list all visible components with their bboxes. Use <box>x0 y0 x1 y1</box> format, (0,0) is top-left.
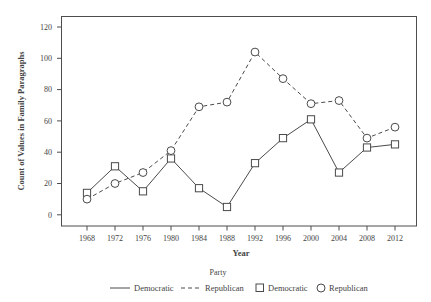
data-point <box>307 116 314 123</box>
data-point <box>391 141 398 148</box>
data-point <box>279 135 286 142</box>
y-tick-label: 80 <box>44 85 52 94</box>
legend-item-republican-marker[interactable]: Republican <box>317 283 368 293</box>
data-point <box>223 203 230 210</box>
x-tick-label: 1996 <box>275 234 291 243</box>
circle-marker-icon <box>317 284 325 292</box>
legend-item-democratic-line[interactable]: Democratic <box>110 283 174 293</box>
data-point <box>279 75 287 83</box>
data-point <box>223 98 231 106</box>
legend-label: Democratic <box>268 283 308 293</box>
data-point <box>111 180 119 188</box>
chart-container: 0 20 40 60 80 100 120 Count of Values in… <box>0 0 431 302</box>
x-axis-title: Year <box>233 248 250 258</box>
data-point <box>335 97 343 105</box>
x-axis-tick-labels: 1968 1972 1976 1980 1984 1988 1992 1996 … <box>79 234 403 243</box>
series-democratic-square <box>83 116 398 211</box>
y-tick-label: 60 <box>44 117 52 126</box>
series-line-republican <box>87 52 395 199</box>
legend-item-republican-line[interactable]: Republican <box>181 283 244 293</box>
data-point <box>363 144 370 151</box>
x-tick-label: 2000 <box>303 234 319 243</box>
y-tick-label: 100 <box>40 54 52 63</box>
data-point <box>111 163 118 170</box>
legend-label: Republican <box>205 283 244 293</box>
data-point <box>83 195 91 203</box>
y-tick-label: 40 <box>44 148 52 157</box>
data-point <box>195 103 203 111</box>
y-axis-title: Count of Values in Family Paragraphs <box>16 51 26 191</box>
x-tick-label: 2004 <box>331 234 347 243</box>
data-point <box>391 123 399 131</box>
x-tick-label: 1992 <box>247 234 263 243</box>
y-axis-ticks <box>57 27 62 215</box>
legend: Party Democratic Republican Democratic R… <box>110 268 368 293</box>
data-point <box>139 169 147 177</box>
legend-item-democratic-marker[interactable]: Democratic <box>256 283 308 293</box>
data-point <box>363 134 371 142</box>
series-line-democratic <box>87 119 395 207</box>
data-point <box>167 147 175 155</box>
y-tick-label: 120 <box>40 23 52 32</box>
y-tick-label: 0 <box>48 211 52 220</box>
data-point <box>195 185 202 192</box>
data-point <box>335 169 342 176</box>
x-tick-label: 1976 <box>135 234 151 243</box>
legend-label: Republican <box>329 283 368 293</box>
y-axis-tick-labels: 0 20 40 60 80 100 120 <box>40 23 52 220</box>
legend-title: Party <box>210 268 227 277</box>
legend-label: Democratic <box>134 283 174 293</box>
x-tick-label: 2008 <box>359 234 375 243</box>
x-axis-ticks <box>87 226 395 231</box>
data-point <box>139 188 146 195</box>
x-tick-label: 1972 <box>107 234 123 243</box>
data-point <box>251 160 258 167</box>
square-marker-icon <box>256 284 264 292</box>
y-tick-label: 20 <box>44 179 52 188</box>
plot-frame <box>62 17 417 227</box>
line-chart: 0 20 40 60 80 100 120 Count of Values in… <box>0 0 431 302</box>
x-tick-label: 1968 <box>79 234 95 243</box>
data-point <box>167 155 174 162</box>
x-tick-label: 2012 <box>387 234 403 243</box>
x-tick-label: 1980 <box>163 234 179 243</box>
x-tick-label: 1984 <box>191 234 207 243</box>
data-point <box>251 48 259 56</box>
data-point <box>307 100 315 108</box>
x-tick-label: 1988 <box>219 234 235 243</box>
data-series-layer <box>83 48 399 210</box>
